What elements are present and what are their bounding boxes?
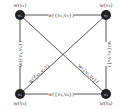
edge-label-v3v4: w({v₃,v₄}) — [48, 91, 74, 97]
node-v2: v₂ — [101, 10, 111, 20]
svg-text:v₄: v₄ — [103, 92, 108, 97]
edge-label-v2v3: w({v₂,v₃}) — [27, 63, 50, 85]
node-v3: v₃ — [15, 89, 25, 99]
svg-text:v₃: v₃ — [17, 92, 22, 97]
edge-label-v1v4: w({v₁,v₄}) — [77, 63, 100, 85]
edge-label-v2v4: w({v₂,v₄}) — [107, 41, 113, 67]
node-v4: v₄ — [101, 89, 111, 99]
node-v1: v₁ — [15, 10, 25, 20]
edge-label-v1v2: w({v₁,v₂}) — [48, 12, 74, 18]
edge-label-v1v3: w({v₁,v₃}) — [17, 41, 23, 67]
svg-text:v₂: v₂ — [103, 13, 108, 18]
node-weight-v4: w(v₄) — [99, 100, 112, 106]
node-weight-v2: w(v₂) — [99, 2, 112, 8]
node-weight-v1: w(v₁) — [13, 2, 26, 8]
graph-diagram: w({v₁,v₂}) w({v₁,v₃}) w({v₂,v₄}) w({v₃,v… — [0, 0, 121, 110]
svg-text:v₁: v₁ — [17, 13, 22, 18]
node-weight-v3: w(v₃) — [13, 100, 26, 106]
